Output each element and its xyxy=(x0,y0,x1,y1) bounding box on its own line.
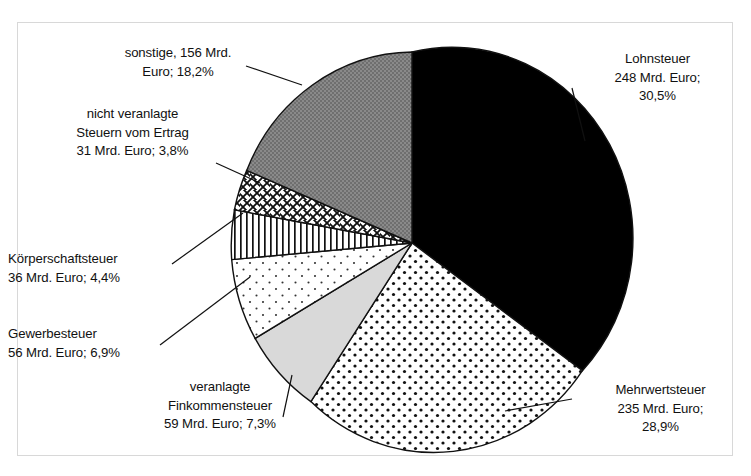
label-koerperschaftsteuer: Körperschaftsteuer 36 Mrd. Euro; 4,4% xyxy=(8,250,193,287)
label-lohnsteuer: Lohnsteuer 248 Mrd. Euro; 30,5% xyxy=(575,50,740,106)
label-mehrwertsteuer: Mehrwertsteuer 235 Mrd. Euro; 28,9% xyxy=(578,381,743,437)
label-sonstige: sonstige, 156 Mrd. Euro; 18,2% xyxy=(78,44,278,81)
label-nicht-veranlagte-steuern: nicht veranlagte Steuern vom Ertrag 31 M… xyxy=(30,105,235,161)
label-gewerbesteuer: Gewerbesteuer 56 Mrd. Euro; 6,9% xyxy=(8,325,193,362)
label-veranlagte-einkommensteuer: veranlagte Finkommensteuer 59 Mrd. Euro;… xyxy=(120,378,320,434)
